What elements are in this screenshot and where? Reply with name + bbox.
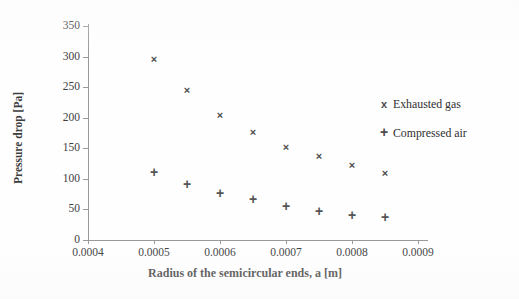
legend-marker-x-icon: x: [378, 98, 390, 110]
chart-figure: Pressure drop [Pa] 050100150200250300350…: [0, 0, 519, 299]
x-tick-label: 0.0009: [388, 246, 448, 258]
legend-label: Compressed air: [393, 127, 467, 139]
y-axis-title: Pressure drop [Pa]: [12, 78, 24, 198]
y-tick-label: 350: [38, 20, 80, 32]
x-tick: [88, 240, 89, 244]
x-tick-label: 0.0005: [124, 246, 184, 258]
y-tick-label: 150: [38, 142, 80, 154]
x-axis-line: [88, 240, 428, 241]
legend-label: Exhausted gas: [393, 98, 461, 110]
x-tick: [352, 240, 353, 244]
y-tick-label: 300: [38, 51, 80, 63]
y-tick-label: 200: [38, 112, 80, 124]
x-tick: [220, 240, 221, 244]
y-tick-label: 250: [38, 81, 80, 93]
x-tick: [418, 240, 419, 244]
y-tick-label: 0: [38, 234, 80, 246]
y-tick-label: 50: [38, 203, 80, 215]
x-tick-label: 0.0008: [322, 246, 382, 258]
plot-area: [88, 26, 418, 240]
x-tick: [154, 240, 155, 244]
x-tick-label: 0.0004: [58, 246, 118, 258]
x-tick: [286, 240, 287, 244]
y-tick-label: 100: [38, 173, 80, 185]
legend-item-exhausted-gas: xExhausted gas: [378, 98, 513, 126]
chart-legend: xExhausted gas +Compressed air: [378, 98, 513, 154]
x-tick-label: 0.0007: [256, 246, 316, 258]
legend-marker-plus-icon: +: [378, 126, 390, 138]
x-tick-label: 0.0006: [190, 246, 250, 258]
x-axis-title: Radius of the semicircular ends, a [m]: [50, 266, 440, 281]
legend-item-compressed-air: +Compressed air: [378, 126, 513, 154]
